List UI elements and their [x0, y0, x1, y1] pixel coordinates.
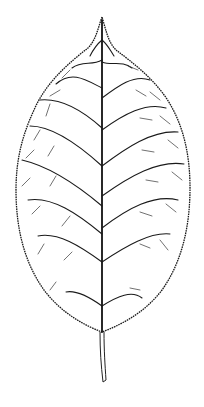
- leaf-margin: [16, 17, 190, 332]
- leaf-illustration: [0, 0, 204, 407]
- right-veins: [102, 40, 184, 306]
- left-veins: [22, 40, 102, 306]
- leaf-drawing: [0, 0, 204, 407]
- petiole: [100, 332, 106, 382]
